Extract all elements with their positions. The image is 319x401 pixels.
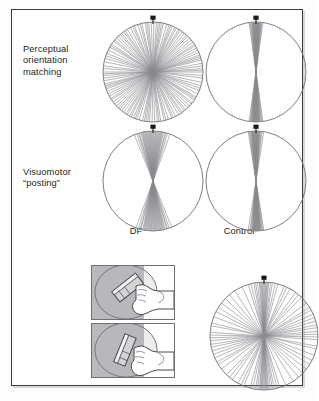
polar-plot-df-visuomotor [96,124,210,238]
figure-container: Perceptual orientation matching Visuomot… [0,0,316,401]
posting-task-illustration-oblique [91,265,175,320]
polar-plot-df-perceptual [96,15,210,129]
polar-plot-control-perceptual [199,15,313,129]
response-lines [248,131,264,231]
polar-plot-svg [199,15,313,129]
polar-plot-bottom-right [203,275,316,397]
polar-plot-svg [199,124,313,238]
posting-task-illustration-steep [91,323,175,378]
polar-plot-svg [203,275,316,397]
row-label-perceptual-orientation-matching: Perceptual orientation matching [23,44,93,78]
response-lines [134,131,171,231]
polar-plot-svg [96,15,210,129]
response-lines [249,22,263,122]
row-label-visuomotor-posting: Visuomotor “posting” [23,167,93,190]
response-lines [103,22,203,122]
polar-plot-control-visuomotor [199,124,313,238]
polar-plot-svg [96,124,210,238]
